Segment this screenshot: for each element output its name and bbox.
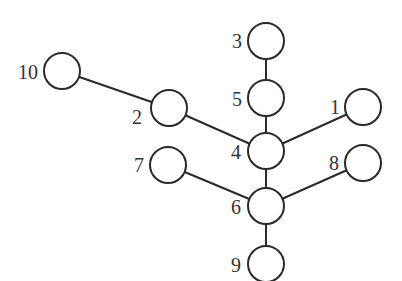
node-circle <box>248 246 284 281</box>
node-6: 6 <box>231 188 284 224</box>
node-1: 1 <box>330 89 381 125</box>
node-label: 10 <box>18 61 38 83</box>
node-label: 4 <box>231 141 241 163</box>
node-circle <box>345 89 381 125</box>
node-label: 8 <box>329 152 339 174</box>
node-circle <box>151 90 187 126</box>
node-label: 1 <box>330 96 340 118</box>
tree-diagram: 12345678910 <box>0 0 402 281</box>
node-label: 2 <box>132 106 142 128</box>
node-circle <box>248 188 284 224</box>
node-5: 5 <box>232 80 284 116</box>
node-circle <box>248 80 284 116</box>
node-circle <box>44 53 80 89</box>
node-7: 7 <box>134 147 186 183</box>
node-circle <box>248 23 284 59</box>
node-label: 9 <box>231 254 241 276</box>
node-circle <box>150 147 186 183</box>
node-3: 3 <box>232 23 284 59</box>
node-9: 9 <box>231 246 284 281</box>
node-label: 3 <box>232 30 242 52</box>
node-circle <box>345 145 381 181</box>
edges-group <box>62 41 363 264</box>
node-circle <box>248 133 284 169</box>
node-label: 5 <box>232 88 242 110</box>
node-label: 7 <box>134 154 144 176</box>
node-label: 6 <box>231 196 241 218</box>
node-10: 10 <box>18 53 80 89</box>
nodes-group: 12345678910 <box>18 23 381 281</box>
node-2: 2 <box>132 90 187 128</box>
